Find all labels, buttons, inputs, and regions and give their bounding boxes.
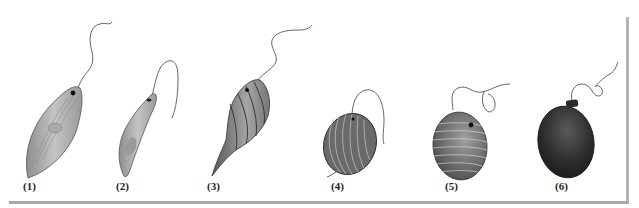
organism-drawings [0,0,639,208]
organism-1-euglena-elongate [26,22,112,178]
frame-shadow-bottom [9,201,629,204]
organism-2-euglena-curved [119,61,178,177]
organism-4-striated-ovoid [316,90,385,182]
label-2: (2) [116,180,129,192]
organism-3-phacus-striated [212,25,312,176]
organism-6-trachelomonas-dark [533,62,618,182]
organism-5-trachelomonas-striated [430,84,510,182]
label-6: (6) [555,180,568,192]
label-5: (5) [445,180,458,192]
label-4: (4) [331,180,344,192]
label-3: (3) [207,180,220,192]
frame-shadow-right [626,17,629,204]
label-1: (1) [23,180,36,192]
protist-figure: (1) (2) (3) (4) (5) (6) [0,0,639,208]
